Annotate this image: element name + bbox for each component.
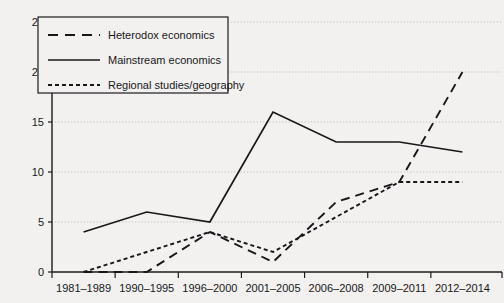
x-tick-label: 2009–2011 xyxy=(372,282,426,294)
chart-canvas: 0510152025 1981–19891990–19951996–200020… xyxy=(0,0,504,303)
x-tick-label: 2001–2005 xyxy=(245,282,300,294)
legend-item-label: Heterodox economics xyxy=(108,29,215,41)
legend: Heterodox economicsMainstream economicsR… xyxy=(38,17,245,93)
legend-item-label: Mainstream economics xyxy=(108,54,222,66)
x-tick-group: 1981–19891990–19951996–20002001–20052006… xyxy=(52,272,502,294)
line-chart: 0510152025 1981–19891990–19951996–200020… xyxy=(0,0,504,303)
y-tick-label: 5 xyxy=(38,216,44,228)
y-tick-label: 10 xyxy=(32,166,44,178)
x-tick-label: 1990–1995 xyxy=(119,282,174,294)
x-tick-label: 1996–2000 xyxy=(182,282,237,294)
y-tick-label: 0 xyxy=(38,266,44,278)
x-tick-label: 2006–2008 xyxy=(309,282,364,294)
x-tick-label: 1981–1989 xyxy=(56,282,111,294)
y-tick-label: 15 xyxy=(32,116,44,128)
series-line-regional-studies-geography xyxy=(84,182,463,272)
legend-item-label: Regional studies/geography xyxy=(108,79,245,91)
x-tick-label: 2012–2014 xyxy=(435,282,490,294)
